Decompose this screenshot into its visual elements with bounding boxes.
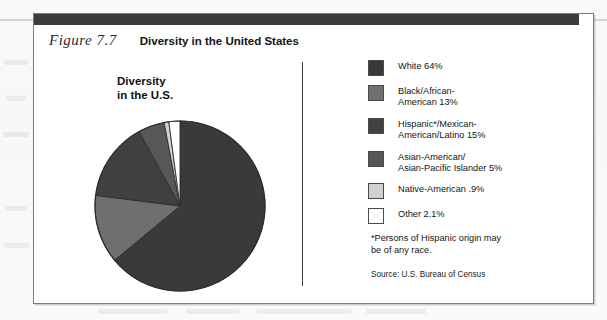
ghost-text-line: [4, 243, 29, 248]
scanned-page: Figure 7.7 Diversity in the United State…: [0, 0, 607, 320]
legend: White 64% Black/African- American 13% Hi…: [368, 60, 583, 279]
ghost-text-line: [4, 60, 28, 65]
legend-item-other: Other 2.1%: [368, 208, 583, 224]
ghost-text-line: [186, 309, 240, 314]
ghost-text-line: [98, 309, 168, 314]
legend-swatch-other-icon: [368, 208, 384, 224]
legend-item-asian-american-pacific-islander: Asian-American/ Asian-Pacific Islander 5…: [368, 151, 583, 175]
legend-swatch-black-african-american-icon: [368, 85, 384, 101]
legend-label: Black/African- American 13%: [398, 85, 458, 109]
legend-swatch-native-american-icon: [368, 183, 384, 199]
ghost-text-line: [6, 96, 26, 101]
legend-label: Asian-American/ Asian-Pacific Islander 5…: [398, 151, 502, 175]
pie-chart: [94, 120, 266, 292]
pie-slices: [95, 121, 265, 291]
legend-label: Other 2.1%: [398, 208, 444, 220]
ghost-text-line: [3, 132, 29, 137]
legend-item-hispanic-mexican-american-latino: Hispanic*/Mexican- American/Latino 15%: [368, 118, 583, 142]
legend-item-white: White 64%: [368, 60, 583, 76]
ghost-text-line: [256, 309, 352, 314]
legend-item-black-african-american: Black/African- American 13%: [368, 85, 583, 109]
figure-header-bar: [34, 14, 579, 25]
figure-number-label: Figure 7.7: [49, 32, 117, 49]
figure-box: Figure 7.7 Diversity in the United State…: [33, 13, 594, 304]
legend-swatch-white-icon: [368, 60, 384, 76]
legend-label: Hispanic*/Mexican- American/Latino 15%: [398, 118, 485, 142]
panel-divider: [302, 62, 303, 286]
legend-footnote: *Persons of Hispanic origin may be of an…: [371, 233, 583, 256]
legend-label: White 64%: [398, 60, 442, 72]
figure-title: Diversity in the United States: [140, 35, 299, 47]
pie-chart-svg: [94, 120, 266, 292]
chart-caption: Diversity in the U.S.: [117, 74, 173, 102]
legend-item-native-american: Native-American .9%: [368, 183, 583, 199]
figure-title-row: Figure 7.7 Diversity in the United State…: [49, 32, 299, 49]
source-note: Source: U.S. Bureau of Census: [371, 270, 583, 279]
legend-swatch-hispanic-icon: [368, 118, 384, 134]
ghost-text-line: [5, 206, 27, 211]
legend-label: Native-American .9%: [398, 183, 484, 195]
legend-swatch-asian-american-icon: [368, 151, 384, 167]
ghost-text-line: [366, 309, 426, 314]
